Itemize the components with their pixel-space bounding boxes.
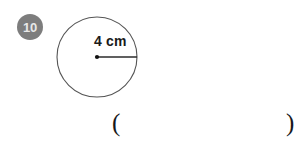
question-number-badge: 10 — [17, 14, 43, 40]
worksheet-page: 10 4 cm ( ) — [0, 0, 304, 153]
answer-input[interactable] — [122, 110, 288, 138]
circle-diagram — [52, 10, 148, 106]
answer-row: ( ) — [0, 108, 304, 138]
center-point-dot — [95, 55, 99, 59]
answer-paren-open: ( — [112, 108, 120, 138]
question-number-label: 10 — [23, 21, 37, 34]
answer-paren-close: ) — [286, 108, 294, 138]
radius-measurement-label: 4 cm — [94, 33, 127, 49]
